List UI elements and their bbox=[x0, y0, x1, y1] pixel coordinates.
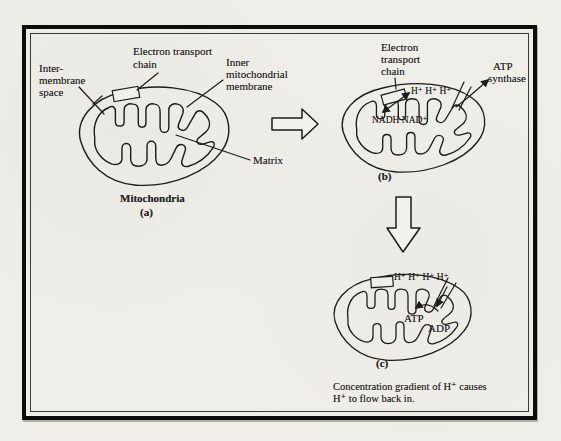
inner-membrane-leader-line bbox=[187, 80, 223, 107]
atp-synthase-channel-line2-b bbox=[459, 87, 471, 110]
scanned-figure-page: Electron transport chain Inter- membrane… bbox=[0, 0, 561, 441]
inner-membrane-label-line3: membrane bbox=[226, 81, 272, 93]
flow-arrow-right-icon bbox=[272, 109, 318, 139]
etc-box-a bbox=[112, 86, 140, 101]
matrix-leader-line bbox=[176, 135, 250, 160]
adp-label: ADP bbox=[428, 323, 450, 335]
etc-label-a-line1: Electron transport bbox=[133, 46, 212, 58]
atp-synthase-pointer-arrow bbox=[456, 80, 488, 107]
inner-membrane-label-line2: mitochondrial bbox=[226, 69, 288, 81]
intermembrane-label-line3: space bbox=[39, 87, 63, 99]
etc-label-b-line2: transport bbox=[381, 54, 420, 66]
intermembrane-label-line1: Inter- bbox=[39, 63, 63, 75]
panel-b-tag: (b) bbox=[378, 171, 391, 183]
mitochondrion-c-drawing bbox=[334, 274, 471, 360]
caption-line2: H⁺ to flow back in. bbox=[333, 393, 415, 405]
nadh-nad-label: NADH NAD⁺ bbox=[372, 115, 427, 125]
atp-synthase-label-line2: synthase bbox=[488, 73, 526, 85]
etc-leader-line-b bbox=[395, 78, 396, 89]
panel-a-tag: (a) bbox=[140, 207, 153, 219]
etc-label-b-line1: Electron bbox=[381, 42, 418, 54]
mitochondrion-a-drawing bbox=[80, 87, 229, 185]
etc-label-a-line2: chain bbox=[133, 59, 157, 71]
panel-c-tag: (c) bbox=[376, 358, 388, 370]
diagram-artwork bbox=[0, 0, 561, 441]
intermembrane-label-line2: membrane bbox=[39, 75, 85, 87]
matrix-label: Matrix bbox=[253, 155, 283, 167]
atp-label: ATP bbox=[404, 313, 424, 325]
proton-channel-line1-c bbox=[434, 278, 448, 306]
etc-box-c bbox=[371, 276, 394, 288]
etc-label-b-line3: chain bbox=[381, 66, 405, 78]
inner-membrane-label-line1: Inner bbox=[226, 57, 249, 69]
mitochondria-title: Mitochondria bbox=[120, 193, 185, 205]
hydrogen-ions-label-c: H⁺ H⁺ H⁺ H⁺ bbox=[394, 272, 449, 282]
mitochondrion-b-drawing bbox=[342, 84, 484, 173]
hydrogen-ions-label-b: H⁺ H⁺ H⁺ bbox=[411, 86, 451, 96]
atp-synthase-label-line1: ATP bbox=[493, 61, 513, 73]
caption-line1: Concentration gradient of H⁺ causes bbox=[333, 381, 487, 393]
flow-arrow-down-icon bbox=[387, 197, 420, 252]
